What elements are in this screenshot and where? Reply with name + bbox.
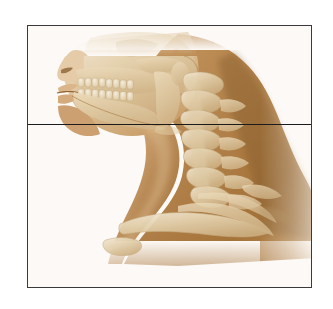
horizontal-reference-line xyxy=(28,124,312,125)
anatomy-svg xyxy=(28,26,311,287)
illustration-frame xyxy=(27,25,312,288)
anatomy-illustration xyxy=(28,26,311,287)
warm-glaze xyxy=(28,26,311,287)
figure-root: skull, mandible, cervical spine and uppe… xyxy=(0,0,333,309)
